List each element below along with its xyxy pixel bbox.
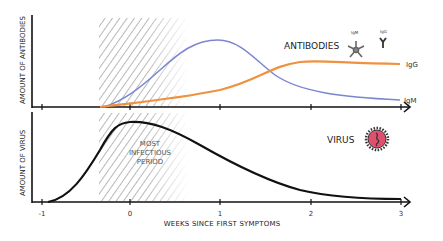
svg-text:MOST: MOST [140,140,161,148]
svg-text:INFECTIOUS: INFECTIOUS [129,149,172,157]
virus-y-label: AMOUNT OF VIRUS [19,129,27,196]
igg-series-label: IgG [406,61,418,69]
xtick-label: -1 [39,210,46,218]
virus-icon [366,128,388,150]
antibody-virus-diagram: AMOUNT OF ANTIBODIES IgG IgM ANTIBODIES … [0,0,443,241]
igm-series-label: IgM [404,97,417,105]
virus-title: VIRUS [327,135,355,145]
xtick-label: 0 [128,210,132,218]
top-panel: AMOUNT OF ANTIBODIES IgG IgM ANTIBODIES … [19,15,418,112]
infectious-period-hatch [99,18,189,201]
xtick-label: 3 [399,210,403,218]
svg-text:PERIOD: PERIOD [137,158,163,166]
igg-icon-label: IgG [380,29,387,34]
xtick-label: 1 [218,210,222,218]
bottom-panel: AMOUNT OF VIRUS MOST INFECTIOUS PERIOD V… [19,112,410,228]
antibodies-title: ANTIBODIES [284,41,339,51]
xtick-label: 2 [309,210,313,218]
igg-antibody-icon [380,38,386,48]
igm-antibody-icon [348,41,364,57]
x-axis-label: WEEKS SINCE FIRST SYMPTOMS [164,220,281,228]
antibodies-y-label: AMOUNT OF ANTIBODIES [19,16,27,104]
igm-icon-label: IgM [351,30,359,35]
